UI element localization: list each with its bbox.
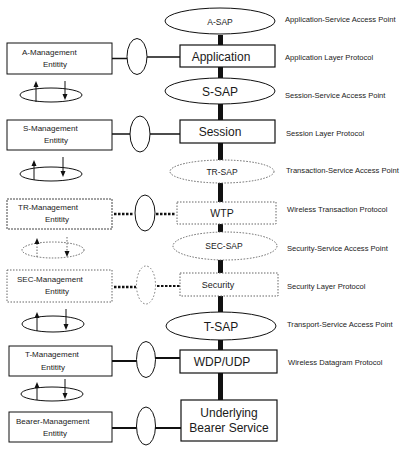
wap-protocol-stack-diagram: A-SAP S-SAP TR-SAP SEC-SAP T-SAP Applica… (0, 0, 407, 451)
layer-wtp: WTP (177, 202, 276, 224)
layer-label: Security (202, 280, 235, 290)
mgmt-sec-management: SEC-Management Entitity (7, 270, 112, 302)
right-labels: Application-Service Access Point Applica… (285, 15, 400, 367)
sap-label: SEC-SAP (205, 241, 243, 251)
mgmt-label-line1: TR-Management (18, 203, 79, 212)
mgmt-sec-arrows-ellipse (22, 309, 84, 332)
label-wireless-datagram-protocol: Wireless Datagram Protocol (288, 358, 383, 367)
label-transaction-service-access-point: Transaction-Service Access Point (286, 166, 400, 175)
mgmt-bearer-management: Bearer-Management Entitity (9, 412, 112, 442)
sap-sec-sap: SEC-SAP (173, 232, 277, 260)
mgmt-a-arrows-ellipse (20, 81, 82, 102)
layer-bearer-service: Underlying Bearer Service (181, 400, 277, 441)
sap-label: A-SAP (207, 17, 233, 27)
mgmt-label-line2: Entitity (43, 429, 67, 438)
mgmt-sec-connector (114, 266, 180, 304)
sap-a-sap: A-SAP (165, 8, 275, 34)
mgmt-tr-connector (114, 195, 176, 231)
mgmt-label-line2: Entitity (43, 60, 67, 69)
mgmt-label-line2: Entitity (41, 363, 65, 372)
mgmt-t-arrows-ellipse (21, 379, 83, 401)
sap-t-sap: T-SAP (166, 312, 276, 340)
layer-label: WTP (210, 207, 233, 219)
mgmt-bearer-connector (112, 407, 181, 445)
label-session-layer-protocol: Session Layer Protocol (286, 129, 364, 138)
layer-label: Application (192, 50, 251, 64)
layer-wdp-udp: WDP/UDP (180, 350, 277, 373)
mgmt-s-management: S-Management Entitity (7, 120, 112, 150)
label-application-layer-protocol: Application Layer Protocol (285, 53, 374, 62)
mgmt-label-line1: S-Management (23, 124, 78, 133)
mgmt-label-line2: Entitity (45, 215, 69, 224)
mgmt-label-line2: Entitity (45, 287, 69, 296)
label-transport-service-access-point: Transport-Service Access Point (287, 320, 394, 329)
mgmt-label-line1: T-Management (25, 350, 80, 359)
mgmt-tr-arrows-ellipse (22, 237, 84, 258)
mgmt-t-management: T-Management Entitity (9, 346, 112, 376)
layer-application: Application (180, 45, 275, 67)
mgmt-a-connector (112, 39, 180, 75)
label-application-service-access-point: Application-Service Access Point (285, 15, 396, 24)
mgmt-label-line1: A-Management (22, 48, 77, 57)
label-security-service-access-point: Security-Service Access Point (287, 244, 389, 253)
mgmt-s-connector (112, 116, 180, 152)
mgmt-a-management: A-Management Entitity (7, 43, 112, 74)
layer-label-line1: Underlying (200, 406, 257, 420)
mgmt-tr-management: TR-Management Entitity (7, 199, 112, 229)
label-session-service-access-point: Session-Service Access Point (285, 91, 386, 100)
mgmt-s-arrows-ellipse (20, 157, 82, 181)
sap-label: TR-SAP (206, 167, 238, 177)
sap-s-sap: S-SAP (165, 78, 275, 104)
sap-label: T-SAP (204, 320, 239, 334)
layer-security: Security (180, 273, 278, 296)
label-security-layer-protocol: Security Layer Protocol (287, 282, 366, 291)
sap-label: S-SAP (202, 85, 238, 99)
label-wireless-transaction-protocol: Wireless Transaction Protocol (287, 205, 388, 214)
mgmt-label-line2: Entitity (44, 136, 68, 145)
mgmt-label-line1: SEC-Management (17, 275, 84, 284)
mgmt-t-connector (112, 342, 180, 378)
layer-label: WDP/UDP (194, 355, 251, 369)
sap-tr-sap: TR-SAP (170, 160, 274, 183)
layer-session: Session (180, 120, 275, 143)
layer-label-line2: Bearer Service (189, 421, 269, 435)
layer-label: Session (199, 125, 242, 139)
mgmt-label-line1: Bearer-Management (16, 417, 90, 426)
